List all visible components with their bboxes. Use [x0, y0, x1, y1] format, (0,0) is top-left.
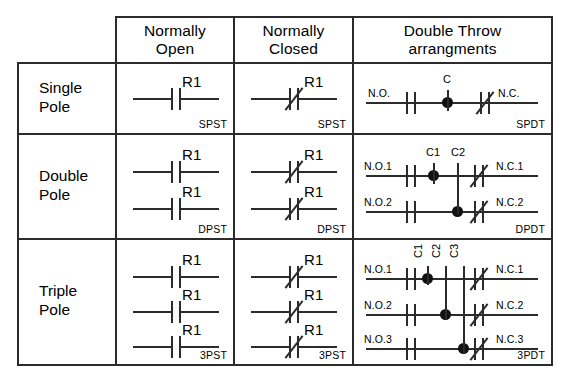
contact-plate-left — [289, 266, 291, 288]
contact-wire-left — [251, 208, 289, 210]
contact-wire-right — [299, 276, 337, 278]
cell-single-pole-normally-closed: R1 SPST — [233, 62, 352, 133]
contact-plate-left — [289, 88, 291, 110]
row-label-line-1: Single — [39, 79, 82, 98]
contact-symbol-no: R1 — [133, 80, 219, 116]
pole-wire — [366, 348, 538, 350]
contact-label: R1 — [182, 183, 202, 200]
terminal-label-nc: N.C.3 — [496, 333, 523, 345]
contact-plate-left — [171, 336, 173, 358]
terminal-label-no: N.O.2 — [364, 299, 392, 311]
header-line-2: Closed — [263, 40, 325, 58]
contact-plate-left — [289, 161, 291, 183]
contact-wire-right — [181, 311, 219, 313]
common-stem-c — [447, 90, 449, 111]
column-header-double-throw: Double Throw arrangments — [354, 18, 551, 62]
row-label-line-2: Pole — [39, 186, 88, 205]
terminal-label-no: N.O.1 — [364, 263, 392, 275]
pole-wire — [366, 314, 538, 316]
contact-label: R1 — [182, 286, 202, 303]
contact-symbol-no: R1 — [133, 258, 219, 294]
common-label-c3: C3 — [448, 244, 460, 258]
cell-triple-pole-normally-open: R1 R1 R1 3PST — [115, 238, 233, 364]
header-line-1: Normally — [144, 22, 206, 40]
contact-wire-right — [181, 98, 219, 100]
nc-plate-left — [474, 338, 476, 360]
row-label-line-2: Pole — [39, 98, 82, 117]
contact-code: 3PST — [200, 349, 227, 361]
contact-wire-left — [133, 276, 171, 278]
contact-code: DPST — [198, 223, 227, 235]
pole-wire — [366, 175, 538, 177]
terminal-label-no: N.O.2 — [364, 196, 392, 208]
contact-wire-left — [251, 98, 289, 100]
contact-plate-left — [406, 338, 408, 360]
contact-wire-left — [251, 346, 289, 348]
terminal-label-nc: N.C. — [498, 87, 519, 99]
cell-double-pole-normally-open: R1 R1 DPST — [115, 133, 233, 238]
contact-plate-left — [171, 266, 173, 288]
contact-label: R1 — [182, 251, 202, 268]
terminal-label-no: N.O.3 — [364, 333, 392, 345]
contact-plate-left — [406, 165, 408, 187]
contact-wire-left — [251, 276, 289, 278]
common-stem-c2 — [445, 266, 447, 319]
contact-plate-left — [406, 268, 408, 290]
common-label-c2: C2 — [430, 244, 442, 258]
contact-wire-left — [133, 171, 171, 173]
nc-plate-left — [474, 304, 476, 326]
common-stem-c3 — [463, 266, 465, 353]
contact-label: R1 — [304, 321, 324, 338]
contact-wire-right — [299, 208, 337, 210]
double-throw-symbol-3pdt: N.O.1 N.C.1 N.O.2 N.C.2 — [352, 238, 551, 364]
nc-plate-left — [474, 165, 476, 187]
cell-single-pole-double-throw: N.O. N.C. C SPDT — [352, 62, 551, 133]
contact-plate-right — [414, 201, 416, 223]
double-throw-pole-2: N.O.2 N.C.2 — [362, 296, 542, 334]
contact-symbol-nc: R1 — [251, 80, 337, 116]
contact-wire-right — [299, 346, 337, 348]
contact-symbol-nc: R1 — [251, 258, 337, 294]
relay-contact-table: Normally Open Normally Closed Double Thr… — [0, 0, 568, 379]
cell-triple-pole-double-throw: N.O.1 N.C.1 N.O.2 N.C.2 — [352, 238, 551, 364]
pole-wire — [366, 278, 538, 280]
contact-symbol-nc: R1 — [251, 153, 337, 189]
terminal-label-nc: N.C.2 — [496, 299, 523, 311]
nc-plate-left — [480, 92, 482, 114]
contact-plate-left — [171, 88, 173, 110]
cell-double-pole-normally-closed: R1 R1 DPST — [233, 133, 352, 238]
contact-plate-right — [414, 268, 416, 290]
row-label-line-2: Pole — [39, 301, 77, 320]
contact-plate-right — [414, 304, 416, 326]
common-label-c2: C2 — [451, 146, 465, 158]
double-throw-pole-3: N.O.3 N.C.3 — [362, 330, 542, 368]
header-line-1: Normally — [263, 22, 325, 40]
contact-plate-left — [406, 92, 408, 114]
contact-plate-left — [171, 161, 173, 183]
contact-symbol-no: R1 — [133, 190, 219, 226]
common-stem-c1 — [427, 266, 429, 285]
terminal-label-nc: N.C.1 — [496, 160, 523, 172]
contact-plate-left — [406, 304, 408, 326]
contact-plate-right — [414, 92, 416, 114]
terminal-label-no: N.O. — [368, 87, 390, 99]
contact-plate-left — [289, 301, 291, 323]
contact-wire-left — [251, 311, 289, 313]
contact-plate-left — [171, 301, 173, 323]
double-throw-pole-1: N.O.1 N.C.1 — [362, 157, 542, 195]
contact-label: R1 — [304, 286, 324, 303]
cell-double-pole-double-throw: N.O.1 N.C.1 N.O.2 N.C.2 — [352, 133, 551, 238]
contact-symbol-nc: R1 — [251, 190, 337, 226]
row-label-line-1: Double — [39, 167, 88, 186]
contact-plate-left — [171, 198, 173, 220]
column-header-normally-open: Normally Open — [117, 18, 233, 62]
contact-wire-right — [181, 208, 219, 210]
double-throw-pole-1: N.O.1 N.C.1 — [362, 260, 542, 298]
header-line-2: Open — [144, 40, 206, 58]
contact-label: R1 — [304, 183, 324, 200]
contact-wire-left — [133, 346, 171, 348]
terminal-label-nc: N.C.2 — [496, 196, 523, 208]
contact-wire-left — [133, 311, 171, 313]
contact-symbol-no: R1 — [133, 293, 219, 329]
contact-symbol-no: R1 — [133, 153, 219, 189]
